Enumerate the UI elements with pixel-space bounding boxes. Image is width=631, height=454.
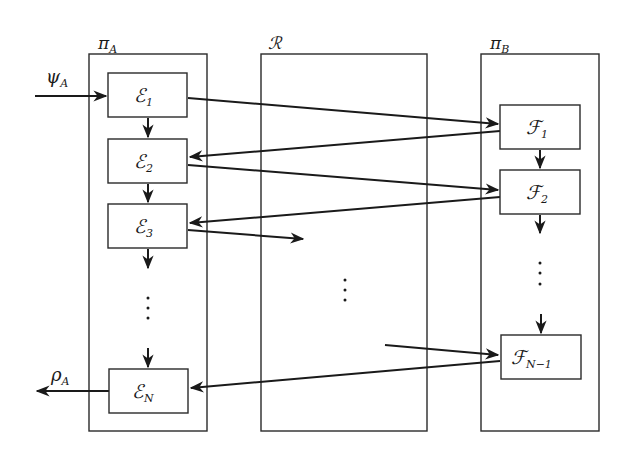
node-e3: ℰ3 bbox=[108, 204, 187, 248]
output-label: ρA bbox=[50, 364, 70, 388]
edge-e1-f1 bbox=[188, 98, 498, 124]
node-f2: ℱ2 bbox=[500, 170, 580, 214]
input-label: ψA bbox=[46, 66, 68, 90]
diagram-canvas: πA ℛ πB ℰ1 ℰ2 ℰ3 ℰN ℱ1 ℱ2 ℱN−1 bbox=[0, 0, 631, 454]
ellipsis-pi-a bbox=[147, 297, 150, 320]
node-e2: ℰ2 bbox=[108, 139, 187, 183]
edge-fn1-en bbox=[191, 361, 500, 388]
ellipsis-pi-b bbox=[539, 262, 542, 286]
container-r-label: ℛ bbox=[268, 33, 283, 53]
edge-f1-e2 bbox=[190, 131, 500, 157]
node-fn1: ℱN−1 bbox=[501, 335, 581, 379]
node-e1: ℰ1 bbox=[108, 73, 187, 117]
container-pi-b-label: πB bbox=[489, 33, 509, 56]
container-pi-a-label: πA bbox=[97, 33, 117, 56]
node-en: ℰN bbox=[109, 369, 188, 413]
node-f1: ℱ1 bbox=[500, 105, 580, 149]
edge-e3-r bbox=[188, 230, 303, 239]
ellipsis-r bbox=[344, 279, 347, 302]
edge-f2-e3 bbox=[190, 197, 500, 223]
edge-e2-f2 bbox=[188, 165, 498, 190]
